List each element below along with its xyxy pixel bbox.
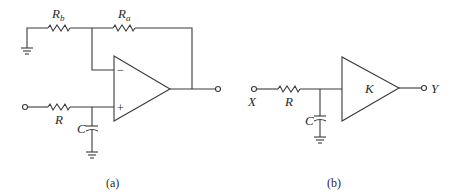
ground-icon — [21, 28, 48, 54]
capacitor-label: C — [305, 113, 314, 128]
ra-label: Ra — [117, 6, 131, 23]
caption-a: (a) — [106, 176, 119, 190]
panel-a-circuit: − + Rb Ra R C (a) — [21, 6, 221, 190]
capacitor-icon — [314, 89, 326, 137]
plus-input-label: + — [117, 101, 124, 115]
minus-input-label: − — [117, 63, 124, 77]
resistor-ra-icon — [113, 25, 135, 31]
output-terminal-icon — [216, 87, 221, 92]
input-resistor-label: R — [54, 112, 63, 127]
resistor-rb-icon — [48, 25, 70, 31]
output-terminal-icon — [422, 86, 427, 91]
output-y-label: Y — [431, 81, 440, 96]
resistor-label: R — [284, 94, 293, 109]
ground-icon — [314, 137, 326, 143]
ground-icon — [86, 152, 98, 158]
input-x-label: X — [247, 94, 257, 109]
panel-b-circuit: X R C K Y (b) — [247, 57, 440, 190]
resistor-r-icon — [278, 86, 300, 92]
rb-label: Rb — [51, 6, 65, 23]
input-terminal-icon — [23, 105, 28, 110]
gain-k-label: K — [364, 81, 375, 96]
capacitor-icon — [86, 107, 98, 152]
caption-b: (b) — [327, 176, 341, 190]
input-terminal-icon — [252, 87, 257, 92]
circuit-diagram: − + Rb Ra R C (a) — [0, 0, 454, 195]
resistor-r-icon — [48, 104, 70, 110]
capacitor-label: C — [77, 121, 86, 136]
